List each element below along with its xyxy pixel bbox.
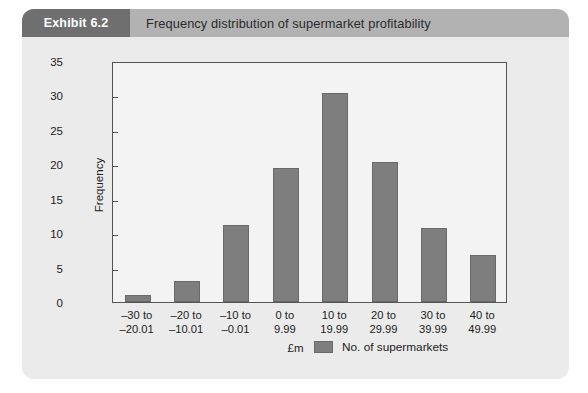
y-tick-label: 30 <box>23 90 63 102</box>
y-tick-mark <box>113 270 118 271</box>
x-axis-title: £m <box>22 342 569 354</box>
bar <box>174 281 200 302</box>
chart-body: Frequency 05101520253035 –30 to –20.01–2… <box>22 37 569 379</box>
bar <box>470 255 496 302</box>
bar <box>421 228 447 302</box>
y-tick-label: 0 <box>23 297 63 309</box>
y-tick-label: 5 <box>23 263 63 275</box>
y-tick-mark <box>113 201 118 202</box>
x-tick-label: 40 to 49.99 <box>458 309 507 336</box>
x-tick-label: –20 to –10.01 <box>161 309 210 336</box>
y-tick-label: 35 <box>23 56 63 68</box>
y-tick-label: 25 <box>23 125 63 137</box>
bar <box>273 168 299 302</box>
exhibit-card: Exhibit 6.2 Frequency distribution of su… <box>22 9 569 379</box>
y-tick-mark <box>113 166 118 167</box>
y-tick-label: 15 <box>23 194 63 206</box>
bar <box>372 162 398 302</box>
x-tick-label: 10 to 19.99 <box>310 309 359 336</box>
bar <box>223 225 249 302</box>
x-tick-label: –10 to –0.01 <box>211 309 260 336</box>
y-axis-title: Frequency <box>93 140 105 230</box>
legend-swatch-no-of-supermarkets <box>314 341 333 353</box>
x-tick-label: 20 to 29.99 <box>359 309 408 336</box>
y-tick-mark <box>113 235 118 236</box>
y-tick-mark <box>113 132 118 133</box>
exhibit-title: Frequency distribution of supermarket pr… <box>130 9 569 37</box>
bar <box>322 93 348 302</box>
x-tick-label: 0 to 9.99 <box>260 309 309 336</box>
chart-legend: No. of supermarkets <box>314 340 448 354</box>
exhibit-header: Exhibit 6.2 Frequency distribution of su… <box>22 9 569 37</box>
y-tick-label: 10 <box>23 228 63 240</box>
y-tick-label: 20 <box>23 159 63 171</box>
plot-area <box>112 62 507 303</box>
x-tick-label: 30 to 39.99 <box>408 309 457 336</box>
legend-label-no-of-supermarkets: No. of supermarkets <box>342 340 448 354</box>
y-tick-mark <box>113 97 118 98</box>
exhibit-badge: Exhibit 6.2 <box>22 9 130 37</box>
x-tick-label: –30 to –20.01 <box>112 309 161 336</box>
bar <box>125 295 151 302</box>
